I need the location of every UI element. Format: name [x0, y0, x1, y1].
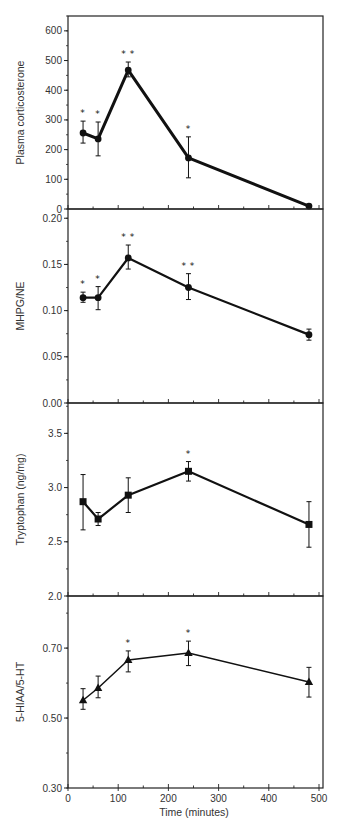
y-tick-label: 100 — [45, 174, 62, 185]
x-tick-label: 200 — [160, 793, 177, 804]
y-tick-label: 0.20 — [43, 213, 63, 224]
y-tick-label: 0.30 — [43, 783, 63, 794]
y-tick-label: 0.15 — [43, 259, 63, 270]
circle-marker-icon — [80, 294, 87, 301]
y-tick-label: 0.05 — [43, 351, 63, 362]
x-tick-label: 100 — [110, 793, 127, 804]
y-axis-label: Plasma corticosterone — [14, 60, 26, 164]
panel-3: 2.02.53.03.5Tryptophan (ng/mg)* — [14, 403, 323, 602]
panel-frame — [68, 209, 323, 403]
y-tick-label: 0.70 — [43, 643, 63, 654]
y-tick-label: 400 — [45, 85, 62, 96]
y-tick-label: 0.10 — [43, 305, 63, 316]
x-tick-label: 0 — [65, 793, 71, 804]
y-tick-label: 0.00 — [43, 398, 63, 409]
panel-4: 0.300.500.705-HIAA/5-HT** — [14, 596, 323, 794]
significance-annotation: * — [95, 109, 101, 119]
square-marker-icon — [95, 516, 102, 523]
significance-annotation: * * — [182, 261, 196, 271]
y-tick-label: 200 — [45, 144, 62, 155]
panel-frame — [68, 403, 323, 596]
circle-marker-icon — [185, 155, 192, 162]
significance-annotation: * — [80, 279, 86, 289]
y-tick-label: 2.0 — [48, 591, 62, 602]
significance-annotation: * — [186, 124, 192, 134]
x-axis-label: Time (minutes) — [159, 806, 229, 818]
panel-frame — [68, 16, 323, 209]
series-line — [83, 258, 309, 335]
significance-annotation: * — [125, 638, 131, 648]
figure: 0100200300400500600Plasma corticosterone… — [0, 0, 342, 838]
square-marker-icon — [185, 468, 192, 475]
x-tick-label: 300 — [210, 793, 227, 804]
significance-annotation: * * — [121, 49, 135, 59]
significance-annotation: * — [95, 274, 101, 284]
y-tick-label: 3.5 — [48, 428, 62, 439]
circle-marker-icon — [80, 130, 87, 137]
circle-marker-icon — [95, 136, 102, 143]
x-tick-label: 500 — [311, 793, 328, 804]
square-marker-icon — [125, 492, 132, 499]
circle-marker-icon — [185, 284, 192, 291]
circle-marker-icon — [125, 255, 132, 262]
panel-1: 0100200300400500600Plasma corticosterone… — [14, 16, 323, 215]
x-tick-label: 400 — [260, 793, 277, 804]
y-axis-label: MHPG/NE — [14, 281, 26, 330]
y-tick-label: 300 — [45, 114, 62, 125]
panel-frame — [68, 596, 323, 788]
panels-group: 0100200300400500600Plasma corticosterone… — [14, 16, 328, 804]
significance-annotation: * * — [121, 232, 135, 242]
series-line — [83, 70, 309, 206]
y-axis-label: 5-HIAA/5-HT — [14, 661, 26, 722]
square-marker-icon — [305, 521, 312, 528]
y-tick-label: 3.0 — [48, 482, 62, 493]
circle-marker-icon — [95, 294, 102, 301]
significance-annotation: * — [80, 108, 86, 118]
square-marker-icon — [80, 498, 87, 505]
circle-marker-icon — [306, 331, 313, 338]
y-axis-label: Tryptophan (ng/mg) — [14, 454, 26, 546]
triangle-marker-icon — [79, 696, 87, 704]
y-tick-label: 500 — [45, 55, 62, 66]
significance-annotation: * — [186, 628, 192, 638]
y-tick-label: 600 — [45, 25, 62, 36]
significance-annotation: * — [186, 449, 192, 459]
series-line — [83, 471, 309, 524]
triangle-marker-icon — [184, 649, 192, 657]
circle-marker-icon — [125, 67, 132, 74]
panel-2: 0.000.050.100.150.20MHPG/NE*** ** * — [14, 209, 323, 409]
series-line — [83, 653, 309, 700]
y-tick-label: 2.5 — [48, 536, 62, 547]
y-tick-label: 0.50 — [43, 713, 63, 724]
